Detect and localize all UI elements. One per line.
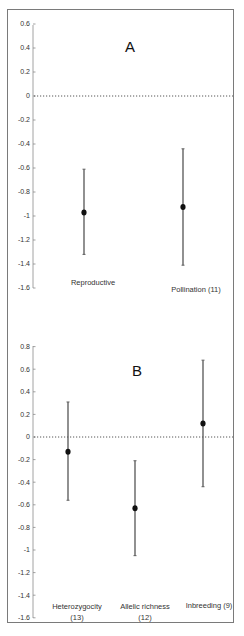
y-tick-label: -1.4 bbox=[18, 592, 30, 599]
y-tick-label: -1.2 bbox=[18, 236, 30, 243]
y-tick-label: 0.4 bbox=[20, 388, 30, 395]
y-tick-label: -0.6 bbox=[18, 501, 30, 508]
error-bar-point bbox=[81, 169, 86, 254]
mean-point bbox=[65, 449, 70, 455]
error-bar-point bbox=[65, 402, 70, 500]
panel-b-category-heterozygocity-n: (13) bbox=[70, 613, 84, 622]
y-tick-label: -0.8 bbox=[18, 524, 30, 531]
panel-a-label: A bbox=[125, 38, 135, 55]
panel-b-category-allelic-richness: Allelic richness bbox=[120, 602, 170, 611]
y-tick-label: -0.4 bbox=[18, 140, 30, 147]
error-bar-point bbox=[132, 461, 137, 556]
y-tick-label: 0 bbox=[26, 433, 30, 440]
y-tick-label: 0.6 bbox=[20, 366, 30, 373]
y-tick-label: -0.2 bbox=[18, 116, 30, 123]
error-bar-point bbox=[200, 360, 205, 487]
panel-b-category-allelic-richness-n: (12) bbox=[138, 613, 152, 622]
figure-frame bbox=[8, 10, 234, 623]
panel-a-category-reproductive: Reproductive bbox=[71, 278, 115, 287]
y-tick-label: -0.2 bbox=[18, 456, 30, 463]
y-tick-label: -1.6 bbox=[18, 284, 30, 291]
mean-point bbox=[81, 209, 86, 215]
y-tick-label: -1 bbox=[24, 212, 30, 219]
y-tick-label: 0.8 bbox=[20, 343, 30, 350]
panel-b: 0.80.60.40.20-0.2-0.4-0.6-0.8-1-1.2-1.4-… bbox=[18, 343, 233, 622]
y-tick-label: -0.8 bbox=[18, 188, 30, 195]
mean-point bbox=[132, 505, 137, 511]
y-tick-label: -0.6 bbox=[18, 164, 30, 171]
y-tick-label: -1.6 bbox=[18, 614, 30, 621]
mean-point bbox=[200, 420, 205, 426]
panel-b-label: B bbox=[132, 362, 142, 379]
y-tick-label: -1 bbox=[24, 546, 30, 553]
y-tick-label: 0.2 bbox=[20, 411, 30, 418]
y-tick-label: 0.6 bbox=[20, 20, 30, 27]
y-tick-label: -1.2 bbox=[18, 569, 30, 576]
y-tick-label: -0.4 bbox=[18, 479, 30, 486]
panel-b-category-heterozygocity: Heterozygocity bbox=[52, 602, 102, 611]
panel-a: 0.60.40.20-0.2-0.4-0.6-0.8-1-1.2-1.4-1.6… bbox=[18, 20, 233, 294]
y-tick-label: -1.4 bbox=[18, 260, 30, 267]
figure: 0.60.40.20-0.2-0.4-0.6-0.8-1-1.2-1.4-1.6… bbox=[0, 0, 244, 636]
y-tick-label: 0 bbox=[26, 92, 30, 99]
panel-a-points bbox=[81, 149, 185, 265]
y-tick-label: 0.4 bbox=[20, 44, 30, 51]
panel-a-category-pollination: Pollination (11) bbox=[171, 285, 221, 294]
mean-point bbox=[180, 204, 185, 210]
error-bar-point bbox=[180, 149, 185, 265]
panel-b-points bbox=[65, 360, 205, 555]
y-tick-label: 0.2 bbox=[20, 68, 30, 75]
panel-b-category-inbreeding: Inbreeding (9) bbox=[186, 601, 233, 610]
